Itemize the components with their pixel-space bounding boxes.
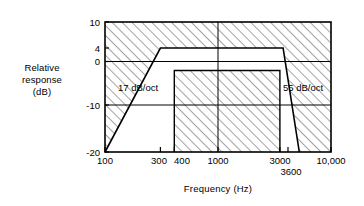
x-tick-label-3600: 3600 [280, 166, 301, 177]
x-tick-label-10000: 10,000 [316, 155, 345, 166]
y-tick-label-4: 4 [95, 43, 100, 54]
x-tick-label-300: 300 [151, 155, 167, 166]
x-tick-label-100: 100 [97, 155, 113, 166]
annotation-left-slope: 17 dB/oct [118, 82, 158, 93]
x-tick-label-400: 400 [174, 155, 190, 166]
y-tick-label-minus10: -10 [86, 100, 100, 111]
frequency-response-mask-chart: Relative response (dB) Frequency (Hz) [0, 0, 364, 206]
x-tick-label-1000: 1000 [207, 155, 228, 166]
y-tick-label-10: 10 [89, 17, 100, 28]
plot-area: 10 4 0 -10 -20 100 300 400 1000 3000 360… [0, 0, 364, 206]
annotation-right-slope: 55 dB/oct [283, 82, 323, 93]
x-tick-label-3000: 3000 [269, 155, 290, 166]
y-tick-label-0: 0 [95, 56, 100, 67]
